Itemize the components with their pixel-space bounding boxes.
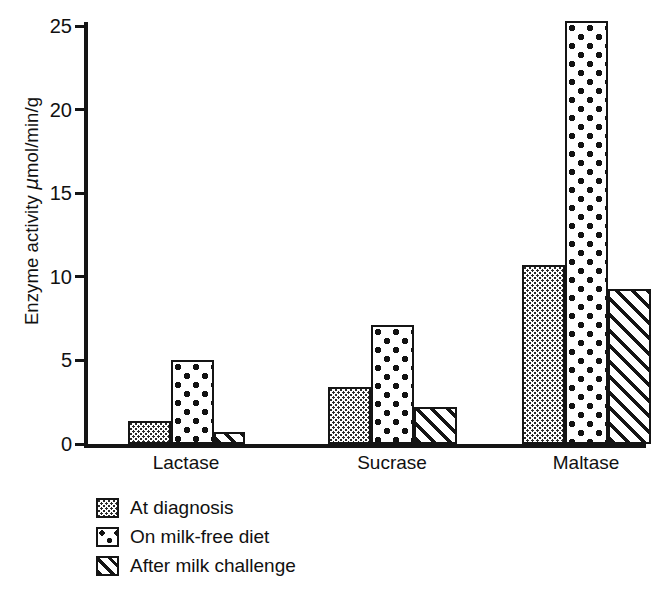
legend-item-stipple: At diagnosis	[96, 494, 296, 521]
bar-sucrase-stipple	[328, 387, 371, 444]
legend-swatch-stipple	[96, 498, 119, 518]
y-tick-label-0: 0	[12, 434, 72, 454]
y-tick-15	[75, 192, 86, 195]
category-label-maltase: Maltase	[526, 452, 646, 474]
legend-swatch-dots	[96, 527, 119, 547]
legend-label-dots: On milk-free diet	[130, 527, 269, 546]
y-tick-label-10: 10	[12, 267, 72, 287]
category-label-sucrase: Sucrase	[332, 452, 452, 474]
enzyme-activity-bar-chart: Enzyme activity μmol/min/g 0510152025 La…	[0, 0, 658, 589]
bar-lactase-stipple	[128, 421, 171, 444]
bar-lactase-hatch	[214, 432, 245, 444]
y-tick-20	[75, 108, 86, 111]
category-label-lactase: Lactase	[126, 452, 246, 474]
y-tick-label-25: 25	[12, 16, 72, 36]
y-tick-label-5: 5	[12, 350, 72, 370]
y-tick-0	[75, 443, 86, 446]
plot-area: 0510152025	[84, 22, 646, 448]
legend-label-hatch: After milk challenge	[130, 556, 296, 575]
chart-legend: At diagnosisOn milk-free dietAfter milk …	[96, 494, 296, 581]
legend-label-stipple: At diagnosis	[130, 498, 234, 517]
y-tick-label-15: 15	[12, 183, 72, 203]
y-tick-5	[75, 359, 86, 362]
y-axis-line	[84, 22, 88, 448]
legend-item-hatch: After milk challenge	[96, 552, 296, 579]
legend-item-dots: On milk-free diet	[96, 523, 296, 550]
bar-sucrase-hatch	[414, 407, 457, 444]
x-axis-line	[84, 444, 646, 448]
bar-lactase-dots	[171, 360, 214, 444]
bar-maltase-stipple	[522, 265, 565, 444]
y-tick-25	[75, 25, 86, 28]
legend-swatch-hatch	[96, 556, 119, 576]
bar-maltase-hatch	[608, 289, 651, 444]
bar-maltase-dots	[565, 21, 608, 444]
bar-sucrase-dots	[371, 325, 414, 444]
y-axis-title-prefix: Enzyme activity	[21, 190, 42, 325]
y-tick-label-20: 20	[12, 100, 72, 120]
y-tick-10	[75, 275, 86, 278]
